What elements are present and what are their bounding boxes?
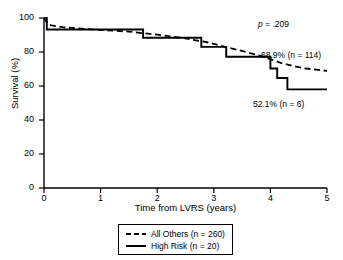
- y-axis-title: Survival (%): [9, 44, 20, 124]
- legend-label-all-others: All Others (n = 260): [151, 229, 225, 239]
- x-axis-title: Time from LVRS (years): [44, 202, 327, 213]
- legend-key-solid-icon: [125, 241, 147, 251]
- y-axis-ticks: [39, 18, 44, 188]
- y-tick-label-100: 100: [8, 13, 34, 22]
- legend-item-all-others: All Others (n = 260): [125, 228, 232, 240]
- plot-canvas: [0, 0, 343, 260]
- p-value-annotation: p = .209: [258, 19, 289, 29]
- chart-legend: All Others (n = 260) High Risk (n = 20): [118, 224, 233, 255]
- all-others-endpoint-label: 68.9% (n = 114): [261, 50, 321, 60]
- high-risk-endpoint-label: 52.1% (n = 6): [253, 99, 304, 109]
- legend-key-dashed-icon: [125, 229, 147, 239]
- p-value-number: = .209: [263, 19, 289, 29]
- legend-item-high-risk: High Risk (n = 20): [125, 240, 232, 252]
- survival-chart-figure: 100 80 60 40 20 0 0 1 2 3 4 5 Survival (…: [0, 0, 343, 260]
- x-axis-ticks: [44, 188, 327, 193]
- y-tick-label-20: 20: [8, 149, 34, 158]
- legend-label-high-risk: High Risk (n = 20): [151, 241, 219, 251]
- y-tick-label-0: 0: [8, 183, 34, 192]
